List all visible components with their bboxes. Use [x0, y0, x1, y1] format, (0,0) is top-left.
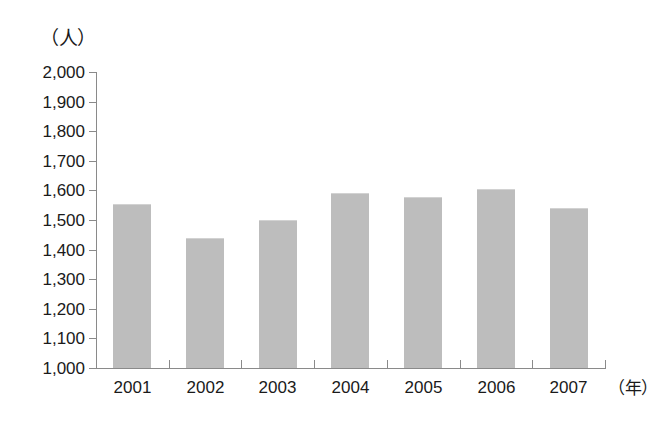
bar — [477, 189, 515, 368]
x-axis-tick-label: 2006 — [460, 379, 533, 396]
x-axis-tick — [169, 360, 170, 369]
y-axis-tick — [89, 190, 97, 191]
y-axis-tick — [89, 279, 97, 280]
x-axis-tick-label: 2002 — [169, 379, 242, 396]
x-axis-tick-label: 2004 — [314, 379, 387, 396]
y-axis-tick — [89, 131, 97, 132]
x-axis-tick-label: 2007 — [532, 379, 605, 396]
bar — [186, 238, 224, 368]
x-axis-tick-label: 2005 — [387, 379, 460, 396]
y-axis-tick-label: 1,400 — [1, 242, 85, 259]
x-axis-tick — [387, 360, 388, 369]
x-axis-line — [96, 368, 606, 369]
y-axis-tick-label: 1,700 — [1, 153, 85, 170]
x-axis-tick-label: 2001 — [96, 379, 169, 396]
x-axis-unit-label: （年） — [608, 380, 657, 397]
y-axis-tick — [89, 338, 97, 339]
y-axis-tick-label: 1,800 — [1, 123, 85, 140]
x-axis-tick-label: 2003 — [241, 379, 314, 396]
x-axis-end-tick — [605, 360, 606, 369]
x-axis-tick — [241, 360, 242, 369]
y-axis-tick — [89, 368, 97, 369]
x-axis-tick — [532, 360, 533, 369]
bar-chart: （人） 2,0001,9001,8001,7001,6001,5001,4001… — [0, 0, 657, 446]
bar — [259, 220, 297, 368]
y-axis-tick — [89, 102, 97, 103]
y-axis-tick-label: 1,500 — [1, 212, 85, 229]
y-axis-tick — [89, 250, 97, 251]
bar — [404, 197, 442, 368]
x-axis-tick — [460, 360, 461, 369]
bar — [331, 193, 369, 368]
y-axis-tick — [89, 309, 97, 310]
y-axis-tick — [89, 161, 97, 162]
bar — [550, 208, 588, 368]
y-axis-tick — [89, 220, 97, 221]
y-axis-tick — [89, 72, 97, 73]
y-axis-tick-label: 1,100 — [1, 330, 85, 347]
y-axis-tick-label: 1,600 — [1, 182, 85, 199]
bar — [113, 204, 151, 368]
y-axis-tick-label: 1,300 — [1, 271, 85, 288]
y-axis-tick-labels: 2,0001,9001,8001,7001,6001,5001,4001,300… — [0, 0, 85, 446]
y-axis-tick-label: 1,200 — [1, 301, 85, 318]
x-axis-tick — [314, 360, 315, 369]
y-axis-tick-label: 2,000 — [1, 64, 85, 81]
y-axis-tick-label: 1,900 — [1, 94, 85, 111]
y-axis-tick-label: 1,000 — [1, 360, 85, 377]
